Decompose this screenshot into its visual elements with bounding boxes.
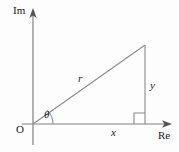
theta-angle-label: θ xyxy=(44,109,49,120)
origin-label: O xyxy=(16,124,24,135)
right-angle-marker xyxy=(134,113,145,124)
diagram-canvas xyxy=(0,0,179,152)
complex-plane-diagram: Im Re O θ r x y xyxy=(0,0,179,152)
modulus-label-r: r xyxy=(78,73,82,84)
imaginary-axis-label: Im xyxy=(13,5,25,16)
imaginary-part-label-y: y xyxy=(150,80,155,91)
real-part-label-x: x xyxy=(111,127,116,138)
real-axis-label: Re xyxy=(158,130,170,141)
hypotenuse-line-r xyxy=(33,45,145,124)
